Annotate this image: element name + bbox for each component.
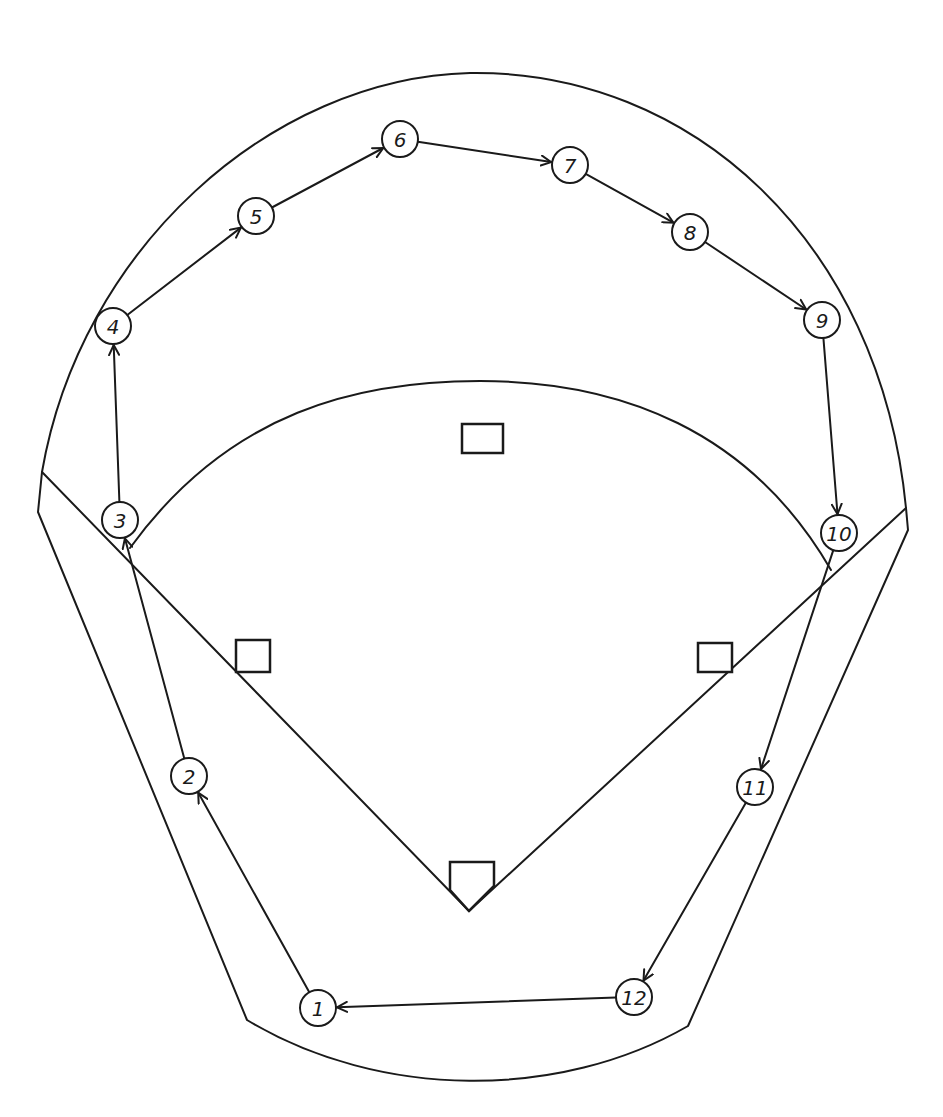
node-label: 6 xyxy=(394,128,407,152)
first-base-foul-line xyxy=(469,508,906,911)
arrow-3-to-4 xyxy=(114,345,120,502)
position-node-2: 2 xyxy=(171,758,207,794)
node-label: 8 xyxy=(684,221,697,245)
node-label: 2 xyxy=(183,765,196,789)
node-label: 3 xyxy=(114,509,127,533)
second-base xyxy=(462,424,503,453)
infield-arc xyxy=(130,381,831,570)
position-node-5: 5 xyxy=(238,198,274,234)
first-base xyxy=(698,643,732,672)
arrow-7-to-8 xyxy=(586,174,674,223)
position-node-3: 3 xyxy=(102,502,138,538)
home-plate xyxy=(450,862,494,911)
arrow-1-to-2 xyxy=(198,793,309,993)
position-node-1: 1 xyxy=(300,990,336,1026)
node-label: 11 xyxy=(742,776,767,800)
third-base-foul-line xyxy=(42,472,469,911)
arrow-4-to-5 xyxy=(127,228,241,315)
arrow-12-to-1 xyxy=(337,998,616,1008)
arrow-8-to-9 xyxy=(705,242,806,310)
arrow-2-to-3 xyxy=(125,538,184,758)
position-node-7: 7 xyxy=(552,147,588,183)
node-label: 9 xyxy=(816,309,829,333)
position-node-4: 4 xyxy=(95,308,131,344)
outfield-fence xyxy=(38,73,908,1081)
position-node-10: 10 xyxy=(821,515,857,551)
position-node-6: 6 xyxy=(382,121,418,157)
node-label: 4 xyxy=(107,315,120,339)
arrow-10-to-11 xyxy=(761,550,833,769)
baseball-field-diagram: 123456789101112 xyxy=(0,0,943,1117)
node-label: 1 xyxy=(312,997,325,1021)
node-label: 12 xyxy=(621,986,646,1010)
node-label: 5 xyxy=(250,205,263,229)
node-label: 10 xyxy=(826,522,851,546)
arrow-6-to-7 xyxy=(418,142,551,162)
position-node-12: 12 xyxy=(616,979,652,1015)
arrow-5-to-6 xyxy=(272,148,383,208)
position-node-11: 11 xyxy=(737,769,773,805)
position-node-8: 8 xyxy=(672,214,708,250)
third-base xyxy=(236,640,270,672)
node-label: 7 xyxy=(564,154,577,178)
arrow-9-to-10 xyxy=(823,338,837,514)
position-node-9: 9 xyxy=(804,302,840,338)
arrow-11-to-12 xyxy=(644,803,747,981)
